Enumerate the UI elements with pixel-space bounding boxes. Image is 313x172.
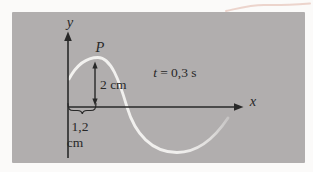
point-p-label: P (96, 40, 105, 55)
time-variable: t (153, 65, 157, 80)
amplitude-label: 2 cm (100, 78, 127, 92)
segment-label-value: 1,2 (72, 120, 89, 134)
diagram-panel (12, 12, 305, 163)
segment-label-unit: cm (67, 136, 84, 150)
stray-red-line (226, 4, 310, 12)
time-value: = 0,3 s (160, 65, 197, 80)
x-axis-label: x (250, 94, 256, 109)
figure-canvas: y P x 2 cm t= 0,3 s 1,2 cm (0, 0, 313, 172)
wave-diagram (0, 0, 313, 172)
y-axis-label: y (67, 15, 73, 30)
time-label: t= 0,3 s (153, 66, 196, 80)
